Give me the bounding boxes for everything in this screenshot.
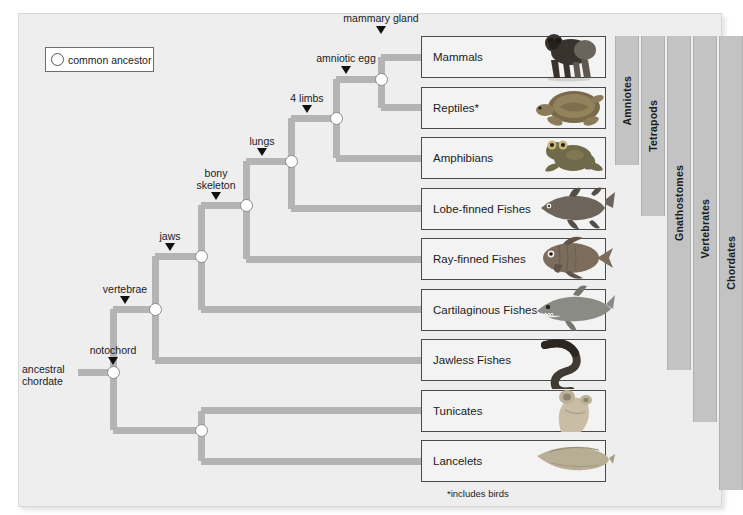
tree-branch-horizontal bbox=[201, 407, 421, 414]
pointer-triangle-icon bbox=[341, 66, 351, 74]
tree-branch-horizontal bbox=[291, 205, 421, 212]
tree-branch-horizontal bbox=[155, 357, 421, 364]
root-label-line2: chordate bbox=[22, 375, 65, 387]
common-ancestor-node-4-limbs bbox=[330, 112, 343, 125]
common-ancestor-node-bony-skeleton bbox=[240, 199, 253, 212]
taxon-box-lobe-finned-fishes: Lobe-finned Fishes bbox=[421, 188, 606, 230]
group-band-label: Gnathostomes bbox=[673, 165, 685, 241]
open-circle-icon bbox=[51, 53, 64, 66]
character-label-lungs: lungs bbox=[202, 135, 322, 147]
taxon-label: Mammals bbox=[422, 51, 483, 63]
legend-box: common ancestor bbox=[45, 47, 154, 72]
group-band-gnathostomes: Gnathostomes bbox=[667, 36, 691, 370]
group-band-amniotes: Amniotes bbox=[615, 36, 639, 165]
tree-branch-horizontal bbox=[201, 306, 421, 313]
tree-branch-horizontal bbox=[381, 104, 421, 111]
character-label-jaws: jaws bbox=[110, 230, 230, 242]
character-label-bony-skeleton: bonyskeleton bbox=[156, 167, 276, 191]
taxon-box-tunicates: Tunicates bbox=[421, 390, 606, 432]
common-ancestor-node-lungs bbox=[285, 155, 298, 168]
taxon-label: Ray-finned Fishes bbox=[422, 253, 526, 265]
common-ancestor-node-vertebrae bbox=[149, 303, 162, 316]
pointer-triangle-icon bbox=[211, 192, 221, 200]
common-ancestor-node-notochord bbox=[107, 366, 120, 379]
taxon-label: Lobe-finned Fishes bbox=[422, 203, 531, 215]
taxon-label: Lancelets bbox=[422, 455, 482, 467]
pointer-triangle-icon bbox=[108, 357, 118, 365]
group-band-label: Chordates bbox=[725, 236, 737, 290]
tree-branch-horizontal bbox=[246, 256, 421, 263]
footnote: *includes birds bbox=[447, 488, 509, 499]
taxon-label: Reptiles* bbox=[422, 102, 479, 114]
pointer-triangle-icon bbox=[120, 296, 130, 304]
taxon-box-amphibians: Amphibians bbox=[421, 137, 606, 179]
character-label-line: bony bbox=[156, 167, 276, 179]
group-band-chordates: Chordates bbox=[719, 36, 743, 490]
taxon-box-mammals: Mammals bbox=[421, 36, 606, 78]
common-ancestor-node-jaws bbox=[195, 250, 208, 263]
root-label-line1: ancestral bbox=[22, 363, 65, 375]
group-band-label: Vertebrates bbox=[699, 199, 711, 258]
common-ancestor-node-amniotic-egg bbox=[375, 73, 388, 86]
taxon-box-reptiles: Reptiles* bbox=[421, 87, 606, 129]
pointer-triangle-icon bbox=[376, 26, 386, 34]
legend-label: common ancestor bbox=[68, 54, 151, 66]
taxon-label: Jawless Fishes bbox=[422, 354, 511, 366]
taxon-box-lancelets: Lancelets bbox=[421, 440, 606, 482]
figure-panel: common ancestor AmniotesTetrapodsGnathos… bbox=[18, 13, 722, 507]
group-band-vertebrates: Vertebrates bbox=[693, 36, 717, 422]
pointer-triangle-icon bbox=[165, 243, 175, 251]
tree-branch-horizontal bbox=[336, 155, 421, 162]
pointer-triangle-icon bbox=[302, 105, 312, 113]
character-label-mammary-gland: mammary gland bbox=[321, 12, 441, 24]
taxon-label: Amphibians bbox=[422, 152, 493, 164]
taxon-box-ray-finned-fishes: Ray-finned Fishes bbox=[421, 238, 606, 280]
character-label-notochord: notochord bbox=[53, 344, 173, 356]
common-ancestor-node-tunicata-cephalochordata bbox=[195, 424, 208, 437]
taxon-box-cartilaginous-fishes: Cartilaginous Fishes bbox=[421, 289, 606, 331]
character-label-line: skeleton bbox=[156, 179, 276, 191]
character-label-4-limbs: 4 limbs bbox=[247, 92, 367, 104]
group-band-tetrapods: Tetrapods bbox=[641, 36, 665, 216]
pointer-triangle-icon bbox=[257, 148, 267, 156]
group-band-label: Tetrapods bbox=[647, 100, 659, 152]
tree-branch-horizontal bbox=[113, 427, 201, 434]
character-label-vertebrae: vertebrae bbox=[65, 283, 185, 295]
taxon-box-jawless-fishes: Jawless Fishes bbox=[421, 339, 606, 381]
ancestral-chordate-label: ancestral chordate bbox=[22, 363, 65, 387]
taxon-label: Cartilaginous Fishes bbox=[422, 304, 537, 316]
tree-branch-horizontal bbox=[201, 458, 421, 465]
group-band-label: Amniotes bbox=[621, 76, 633, 125]
taxon-label: Tunicates bbox=[422, 405, 482, 417]
character-label-amniotic-egg: amniotic egg bbox=[286, 52, 406, 64]
